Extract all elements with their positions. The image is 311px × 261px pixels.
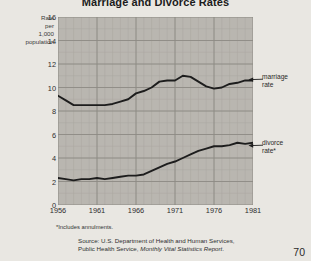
x-tick-label: 1956 — [50, 206, 66, 215]
y-tick-label: 14 — [40, 36, 56, 45]
marriage-rate-label: marriage rate — [262, 73, 288, 88]
y-tick-label: 2 — [40, 177, 56, 186]
chart-title: Marriage and Divorce Rates — [0, 0, 311, 8]
divorce-rate-label-line-1: divorce — [262, 139, 283, 147]
source-note: Source: U.S. Department of Health and Hu… — [78, 237, 234, 253]
source-line-1: Source: U.S. Department of Health and Hu… — [78, 237, 234, 245]
source-line-2: Public Health Service, Monthly Vital Sta… — [78, 245, 234, 253]
plot-area — [58, 17, 253, 205]
footnote: *Includes annulments. — [56, 224, 113, 230]
x-tick-label: 1981 — [245, 206, 261, 215]
x-tick-label: 1976 — [206, 206, 222, 215]
y-tick-label: 6 — [40, 130, 56, 139]
source-publication: Monthly Vital Statistics Report — [140, 245, 222, 252]
page-number: 70 — [293, 246, 305, 258]
x-tick-label: 1971 — [167, 206, 183, 215]
source-prefix: Public Health Service, — [78, 245, 140, 252]
x-tick-label: 1961 — [89, 206, 105, 215]
y-tick-label: 12 — [40, 60, 56, 69]
y-tick-label: 8 — [40, 107, 56, 116]
y-tick-label: 16 — [40, 13, 56, 22]
divorce-rate-label: divorce rate* — [262, 139, 283, 154]
y-axis-tick-labels: 0246810121416 — [38, 17, 56, 205]
y-tick-label: 10 — [40, 83, 56, 92]
x-axis-tick-labels: 195619611966197119761981 — [58, 206, 253, 218]
marriage-rate-label-line-2: rate — [262, 81, 288, 89]
y-tick-label: 4 — [40, 154, 56, 163]
series-line — [58, 143, 253, 181]
series-line — [58, 76, 253, 105]
figure-root: Marriage and Divorce Rates Rate per 1,00… — [0, 0, 311, 261]
divorce-rate-label-line-2: rate* — [262, 147, 283, 155]
source-suffix: . — [222, 245, 224, 252]
data-lines — [58, 17, 253, 205]
marriage-rate-label-line-1: marriage — [262, 73, 288, 81]
x-tick-label: 1966 — [128, 206, 144, 215]
